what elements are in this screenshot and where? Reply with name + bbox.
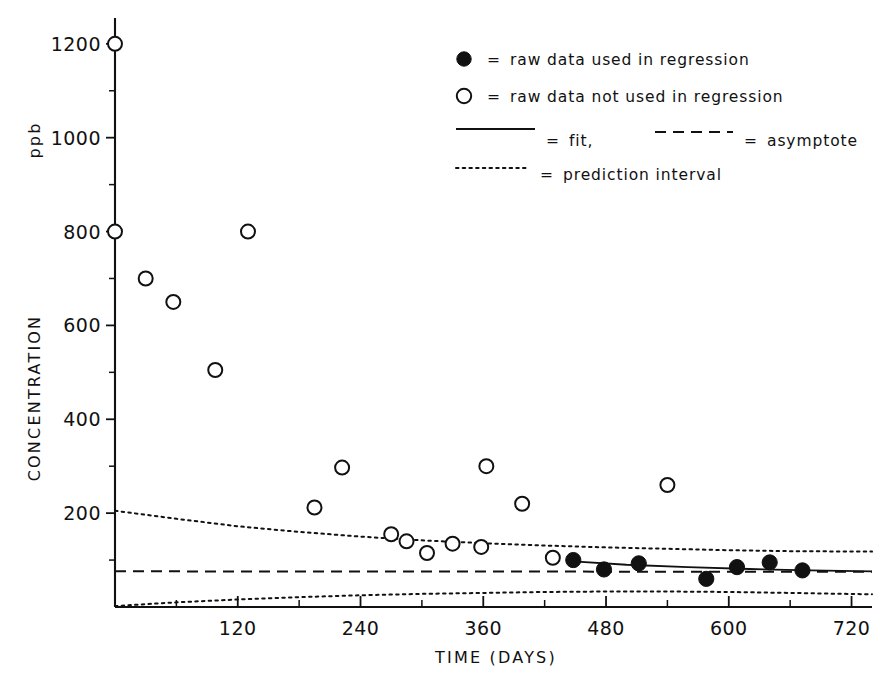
legend: = raw data used in regression = raw data… <box>456 51 858 184</box>
y-axis-title: CONCENTRATION <box>25 315 44 482</box>
data-point <box>446 537 460 551</box>
y-tick-label: 200 <box>63 502 101 524</box>
y-axis-ticks <box>106 44 115 560</box>
data-point <box>795 563 810 578</box>
prediction-upper-path <box>115 511 872 552</box>
data-point <box>166 295 180 309</box>
legend-filled-circle-icon <box>457 52 471 66</box>
y-tick-label: 400 <box>63 408 101 430</box>
x-tick-label: 600 <box>710 617 748 639</box>
legend-label-fit: fit, <box>569 132 593 150</box>
data-point <box>108 37 122 51</box>
x-tick-label: 720 <box>833 617 871 639</box>
data-point <box>139 271 153 285</box>
prediction-interval-upper-curve <box>115 511 872 552</box>
data-point <box>208 363 222 377</box>
data-point <box>479 459 493 473</box>
figure-container: 20040060080010001200 120240360480600720 … <box>0 0 884 685</box>
data-point <box>762 555 777 570</box>
filled-circle-data-points <box>566 552 810 586</box>
legend-equals-1: = <box>487 88 501 106</box>
data-point <box>384 527 398 541</box>
data-point <box>546 551 560 565</box>
legend-equals-2: = <box>546 132 560 150</box>
legend-equals-3: = <box>744 132 758 150</box>
legend-open-circle-icon <box>457 89 471 103</box>
data-point <box>699 571 714 586</box>
data-point <box>335 461 349 475</box>
data-point <box>596 562 611 577</box>
legend-label-asymptote: asymptote <box>767 132 858 150</box>
data-point <box>241 225 255 239</box>
x-tick-label: 120 <box>219 617 257 639</box>
y-tick-label: 1000 <box>51 127 101 149</box>
x-tick-label: 240 <box>342 617 380 639</box>
y-axis-tick-labels: 20040060080010001200 <box>51 33 101 524</box>
data-point <box>660 478 674 492</box>
fit-line <box>573 561 872 571</box>
data-point <box>474 540 488 554</box>
legend-equals-0: = <box>487 51 501 69</box>
scatter-chart: 20040060080010001200 120240360480600720 … <box>0 0 884 685</box>
data-point <box>400 534 414 548</box>
legend-label-prediction-interval: prediction interval <box>563 166 722 184</box>
legend-equals-4: = <box>540 166 554 184</box>
prediction-lower-path <box>115 592 872 607</box>
y-tick-label: 1200 <box>51 33 101 55</box>
data-point <box>515 497 529 511</box>
x-tick-label: 480 <box>587 617 625 639</box>
x-axis-tick-labels: 120240360480600720 <box>219 617 871 639</box>
y-tick-label: 600 <box>63 314 101 336</box>
data-point <box>729 560 744 575</box>
data-point <box>566 552 581 567</box>
data-point <box>631 556 646 571</box>
fit-path <box>573 561 872 571</box>
x-tick-label: 360 <box>464 617 502 639</box>
open-circle-data-points <box>108 37 674 565</box>
y-axis-unit-label: ppb <box>25 121 44 158</box>
data-point <box>420 546 434 560</box>
prediction-interval-lower-curve <box>115 592 872 607</box>
legend-label-raw-data-used: raw data used in regression <box>510 51 750 69</box>
data-point <box>108 225 122 239</box>
y-tick-label: 800 <box>63 221 101 243</box>
legend-label-raw-data-not-used: raw data not used in regression <box>510 88 784 106</box>
x-axis-title: TIME (DAYS) <box>434 648 557 667</box>
data-point <box>307 501 321 515</box>
